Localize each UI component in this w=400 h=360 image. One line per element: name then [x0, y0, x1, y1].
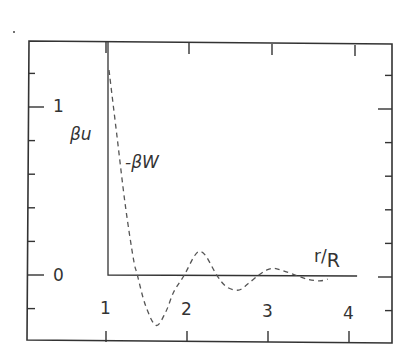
beta-u-label: βu	[70, 126, 92, 143]
y-tick-label-0: 0	[53, 267, 64, 284]
x-tick-label-2: 2	[181, 301, 192, 318]
scan-dot	[13, 31, 15, 33]
x-axis-label-r: r/	[314, 246, 327, 266]
x-tick-label-4: 4	[343, 305, 354, 322]
x-tick-label-1: 1	[100, 300, 111, 317]
y-tick-label-1: 1	[53, 98, 64, 115]
chart-canvas	[0, 0, 400, 360]
plot-frame	[27, 41, 392, 343]
x-tick-label-3: 3	[262, 303, 273, 320]
minus-beta-w-curve	[109, 70, 328, 325]
minus-beta-w-label: -βW	[125, 154, 159, 171]
x-axis-label: r/R	[314, 246, 340, 265]
x-axis-label-r-sub: R	[327, 249, 340, 271]
axis-ticks	[28, 42, 392, 342]
